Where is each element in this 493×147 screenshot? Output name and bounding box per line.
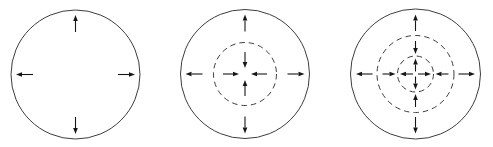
inward-arrows-at-core-right-arrow bbox=[251, 72, 267, 77]
arrow-head bbox=[413, 59, 418, 65]
outward-arrows-at-rim-down-arrow bbox=[73, 117, 78, 134]
outward-arrows-at-core-up-arrow bbox=[413, 59, 418, 72]
arrow-head bbox=[243, 80, 248, 86]
arrow-head bbox=[299, 72, 305, 77]
arrow-head bbox=[243, 62, 248, 68]
inward-arrows-at-middle-left-arrow bbox=[383, 72, 396, 77]
arrow-head bbox=[73, 15, 78, 21]
inner-dashed-circle bbox=[214, 43, 277, 106]
arrow-head bbox=[390, 72, 396, 77]
arrow-head bbox=[16, 72, 22, 77]
arrow-head bbox=[400, 72, 406, 77]
arrow-head bbox=[469, 72, 475, 77]
arrow-head bbox=[243, 15, 248, 21]
circle-panel-left bbox=[11, 10, 140, 139]
arrow-head bbox=[413, 48, 418, 54]
outward-arrows-at-rim-down-arrow bbox=[413, 117, 418, 134]
arrow-head bbox=[243, 128, 248, 134]
circle-panel-right bbox=[351, 9, 481, 139]
arrow-head bbox=[73, 128, 78, 134]
outward-arrows-at-rim-right-arrow bbox=[288, 72, 305, 77]
outward-arrows-at-rim-left-arrow bbox=[16, 72, 33, 77]
arrow-head bbox=[356, 72, 362, 77]
inward-arrows-at-core-down-arrow bbox=[243, 80, 248, 96]
inward-arrows-at-core-left-arrow bbox=[223, 72, 239, 77]
arrow-head bbox=[425, 72, 431, 77]
arrow-head bbox=[233, 72, 239, 77]
arrow-head bbox=[436, 72, 442, 77]
circle-panel-middle bbox=[181, 10, 310, 139]
arrow-head bbox=[413, 94, 418, 100]
inward-arrows-at-middle-down-arrow bbox=[413, 94, 418, 107]
three-circles-arrow-diagram bbox=[0, 0, 493, 147]
outward-arrows-at-rim-down-arrow bbox=[243, 117, 248, 134]
outward-arrows-at-rim-up-arrow bbox=[73, 15, 78, 32]
arrow-head bbox=[251, 72, 257, 77]
outward-arrows-at-rim-right-arrow bbox=[118, 72, 135, 77]
arrow-head bbox=[186, 72, 192, 77]
inward-arrows-at-middle-right-arrow bbox=[436, 72, 449, 77]
arrow-head bbox=[413, 15, 418, 21]
outward-arrows-at-rim-up-arrow bbox=[243, 15, 248, 32]
arrow-head bbox=[413, 128, 418, 134]
outward-arrows-at-rim-left-arrow bbox=[186, 72, 203, 77]
outward-arrows-at-core-left-arrow bbox=[400, 72, 413, 77]
outward-arrows-at-core-down-arrow bbox=[413, 77, 418, 90]
arrow-head bbox=[413, 84, 418, 90]
figure-canvas bbox=[0, 0, 493, 147]
outward-arrows-at-core-right-arrow bbox=[418, 72, 431, 77]
outward-arrows-at-rim-right-arrow bbox=[459, 72, 476, 77]
outward-arrows-at-rim-up-arrow bbox=[413, 15, 418, 32]
inward-arrows-at-middle-up-arrow bbox=[413, 41, 418, 54]
arrow-head bbox=[129, 72, 135, 77]
outward-arrows-at-rim-left-arrow bbox=[356, 72, 373, 77]
inward-arrows-at-core-up-arrow bbox=[243, 52, 248, 68]
